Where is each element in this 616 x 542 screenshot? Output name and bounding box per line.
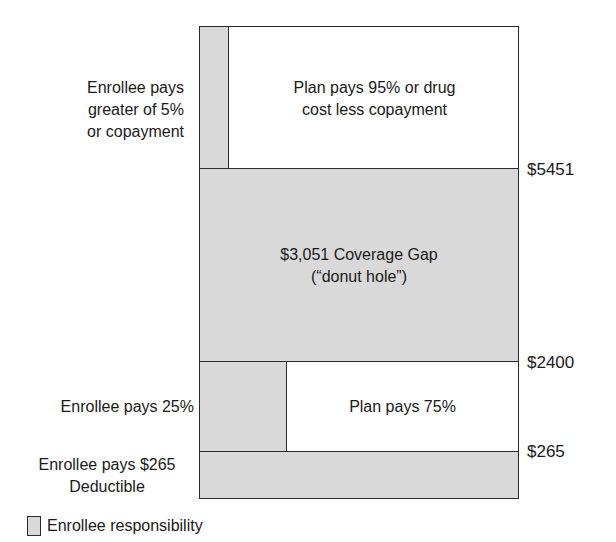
coverage-gap-line2: (“donut hole”) [199, 266, 519, 288]
catastrophic-plan-line1: Plan pays 95% or drug [230, 77, 519, 99]
legend-label: Enrollee responsibility [47, 517, 203, 535]
catastrophic-left-label: Enrollee pays greater of 5% or copayment [40, 77, 184, 143]
initial-enrollee-segment [199, 361, 288, 453]
catastrophic-plan-line2: cost less copayment [230, 99, 519, 121]
threshold-265: $265 [527, 442, 565, 462]
legend-swatch-icon [27, 516, 41, 536]
deductible-left-line2: Deductible [20, 476, 194, 498]
coverage-gap-line1: $3,051 Coverage Gap [199, 244, 519, 266]
catastrophic-left-line2: greater of 5% [40, 99, 184, 121]
initial-left-text: Enrollee pays 25% [20, 396, 194, 418]
threshold-5451: $5451 [527, 160, 574, 180]
legend: Enrollee responsibility [27, 514, 203, 538]
deductible-left-label: Enrollee pays $265 Deductible [20, 454, 194, 498]
deductible-segment [199, 451, 519, 499]
deductible-left-line1: Enrollee pays $265 [20, 454, 194, 476]
catastrophic-left-line3: or copayment [40, 121, 184, 143]
initial-left-label: Enrollee pays 25% [20, 396, 194, 418]
catastrophic-enrollee-segment [199, 26, 230, 170]
initial-plan-text: Plan pays 75% [286, 396, 519, 418]
initial-plan-label: Plan pays 75% [286, 396, 519, 418]
coverage-gap-label: $3,051 Coverage Gap (“donut hole”) [199, 244, 519, 288]
catastrophic-plan-label: Plan pays 95% or drug cost less copaymen… [230, 77, 519, 121]
threshold-2400: $2400 [527, 353, 574, 373]
catastrophic-left-line1: Enrollee pays [40, 77, 184, 99]
